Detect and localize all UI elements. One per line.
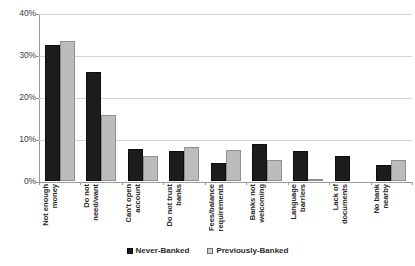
bar-group <box>45 13 75 181</box>
bar-previously-banked[interactable] <box>184 147 199 181</box>
x-axis-category-label: Not enough money <box>42 184 78 238</box>
bar-never-banked[interactable] <box>252 144 267 181</box>
legend-item[interactable]: Previously-Banked <box>207 246 288 256</box>
bar-group <box>293 13 323 181</box>
x-axis-category-label: Banks not welcoming <box>249 184 285 238</box>
x-axis-category-labels: Not enough moneyDo not need/wantCan't op… <box>39 184 412 238</box>
bar-previously-banked[interactable] <box>267 160 282 181</box>
x-axis-tick-mark <box>412 182 413 185</box>
bar-never-banked[interactable] <box>293 151 308 181</box>
x-axis-category-label: Fees/balance requirements <box>208 184 244 238</box>
x-axis-category-label: Do not need/want <box>83 184 119 238</box>
bar-never-banked[interactable] <box>45 45 60 182</box>
bar-group <box>128 13 158 181</box>
y-axis-tick-label: 10% <box>2 135 36 144</box>
legend-item[interactable]: Never-Banked <box>127 246 190 256</box>
bar-previously-banked[interactable] <box>226 150 241 182</box>
bar-previously-banked[interactable] <box>101 115 116 181</box>
bar-group <box>211 13 241 181</box>
bar-never-banked[interactable] <box>335 156 350 181</box>
bar-never-banked[interactable] <box>211 163 226 181</box>
plot-area <box>39 14 412 182</box>
legend-swatch-light <box>207 248 213 254</box>
x-axis-category-label: Do not trust banks <box>166 184 202 238</box>
bar-previously-banked[interactable] <box>391 160 406 181</box>
gridline <box>39 182 412 183</box>
bar-never-banked[interactable] <box>376 165 391 181</box>
bar-chart: 0%10%20%30%40% Not enough moneyDo not ne… <box>0 0 415 266</box>
bar-previously-banked[interactable] <box>308 179 323 181</box>
bar-group <box>169 13 199 181</box>
y-axis-tick-labels: 0%10%20%30%40% <box>0 14 36 182</box>
x-axis-category-label: Lack of documents <box>332 184 368 238</box>
y-axis-tick-label: 30% <box>2 51 36 60</box>
legend-label: Never-Banked <box>136 246 190 256</box>
y-axis-tick-label: 0% <box>2 177 36 186</box>
bar-previously-banked[interactable] <box>143 156 158 181</box>
bar-never-banked[interactable] <box>86 72 101 181</box>
y-axis-tick-label: 20% <box>2 93 36 102</box>
bar-never-banked[interactable] <box>169 151 184 181</box>
bar-group <box>86 13 116 181</box>
x-axis-category-label: Language barriers <box>290 184 326 238</box>
x-axis-category-label: No bank nearby <box>373 184 409 238</box>
legend-swatch-dark <box>127 248 133 254</box>
y-axis-tick-label: 40% <box>2 9 36 18</box>
chart-legend: Never-BankedPreviously-Banked <box>0 246 415 256</box>
legend-label: Previously-Banked <box>216 246 288 256</box>
x-axis-category-label: Can't open account <box>125 184 161 238</box>
bar-previously-banked[interactable] <box>60 41 75 181</box>
bar-never-banked[interactable] <box>128 149 143 181</box>
bar-group <box>252 13 282 181</box>
bar-group <box>376 13 406 181</box>
bar-group <box>335 13 365 181</box>
